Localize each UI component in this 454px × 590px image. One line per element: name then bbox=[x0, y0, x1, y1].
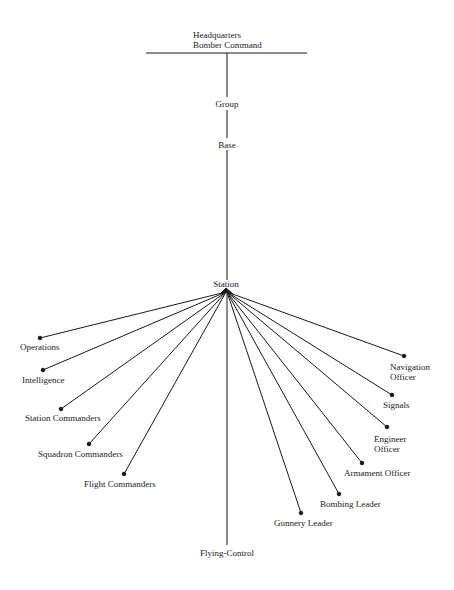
branch-line-signals bbox=[227, 292, 392, 395]
engineer-officer-label: Engineer Officer bbox=[374, 434, 406, 454]
branch-line-engineer-officer bbox=[227, 292, 387, 427]
dot-navigation-officer bbox=[402, 354, 406, 358]
navigation-officer-label-line2: Officer bbox=[390, 372, 430, 382]
branch-line-navigation-officer bbox=[227, 292, 404, 356]
dot-signals bbox=[390, 393, 394, 397]
dot-engineer-officer bbox=[385, 425, 389, 429]
dot-operations bbox=[38, 336, 42, 340]
dot-station-commanders bbox=[59, 407, 63, 411]
dot-armament-officer bbox=[360, 461, 364, 465]
hq-label-line2: Bomber Command bbox=[193, 40, 262, 50]
flight-commanders-label: Flight Commanders bbox=[84, 479, 156, 489]
branch-line-armament-officer bbox=[227, 292, 362, 463]
branch-line-squadron-commanders bbox=[89, 292, 226, 444]
branch-line-intelligence bbox=[43, 292, 226, 370]
station-commanders-label: Station Commanders bbox=[25, 413, 101, 423]
engineer-officer-label-line2: Officer bbox=[374, 444, 406, 454]
hq-label-line1: Headquarters bbox=[193, 30, 262, 40]
squadron-commanders-label: Squadron Commanders bbox=[38, 449, 123, 459]
station-label: Station bbox=[213, 279, 239, 289]
base-label: Base bbox=[218, 140, 236, 150]
dot-intelligence bbox=[41, 368, 45, 372]
org-chart-lines bbox=[0, 0, 454, 590]
gunnery-leader-label: Gunnery Leader bbox=[274, 518, 333, 528]
dot-gunnery-leader bbox=[299, 511, 303, 515]
operations-label: Operations bbox=[20, 342, 60, 352]
navigation-officer-label-line1: Navigation bbox=[390, 362, 430, 372]
intelligence-label: Intelligence bbox=[22, 375, 64, 385]
navigation-officer-label: Navigation Officer bbox=[390, 362, 430, 382]
dot-squadron-commanders bbox=[87, 442, 91, 446]
flying-control-label: Flying-Control bbox=[200, 548, 254, 558]
dot-bombing-leader bbox=[337, 492, 341, 496]
bombing-leader-label: Bombing Leader bbox=[320, 499, 381, 509]
branch-line-station-commanders bbox=[61, 292, 226, 409]
group-label: Group bbox=[216, 99, 239, 109]
branch-line-bombing-leader bbox=[227, 292, 339, 494]
signals-label: Signals bbox=[383, 400, 410, 410]
dot-flight-commanders bbox=[122, 472, 126, 476]
engineer-officer-label-line1: Engineer bbox=[374, 434, 406, 444]
hq-label: Headquarters Bomber Command bbox=[193, 30, 262, 50]
branch-line-gunnery-leader bbox=[227, 292, 301, 513]
armament-officer-label: Armament Officer bbox=[344, 468, 411, 478]
branch-line-flight-commanders bbox=[124, 292, 226, 474]
